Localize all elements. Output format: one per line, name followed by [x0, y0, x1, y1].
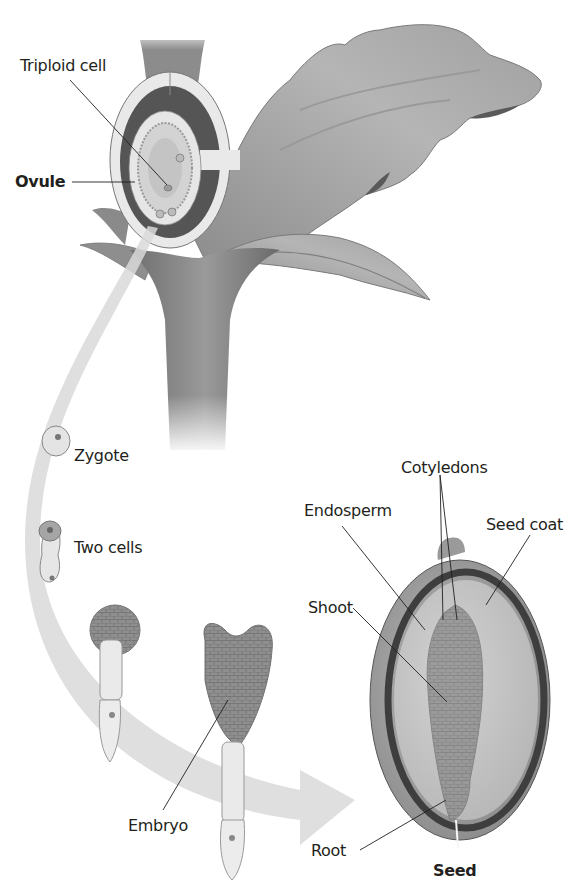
label-shoot: Shoot: [308, 598, 353, 617]
zygote-illustration: [42, 426, 70, 456]
heart-embryo-illustration: [204, 623, 272, 880]
label-triploid-cell: Triploid cell: [20, 56, 106, 75]
diagram-illustration: [0, 0, 587, 889]
label-embryo: Embryo: [128, 816, 188, 835]
label-root: Root: [311, 841, 346, 860]
two-cells-illustration: [39, 521, 61, 582]
label-endosperm: Endosperm: [304, 501, 392, 520]
leaf-large: [195, 25, 541, 270]
label-seed: Seed: [433, 861, 476, 880]
seed-development-diagram: Triploid cell Ovule Zygote Two cells Cot…: [0, 0, 587, 889]
label-ovule: Ovule: [15, 172, 65, 191]
seed-illustration: [370, 538, 550, 848]
label-two-cells: Two cells: [74, 538, 142, 557]
label-seed-coat: Seed coat: [486, 515, 563, 534]
label-zygote: Zygote: [74, 446, 129, 465]
label-cotyledons: Cotyledons: [401, 458, 487, 477]
